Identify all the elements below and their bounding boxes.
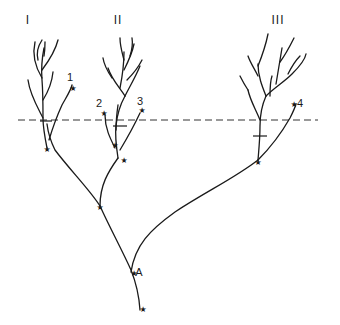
clade-label-II: II [114,13,123,27]
star-icon: ★ [96,203,103,212]
tip-label-2: 2 [96,97,102,109]
star-icon: ★ [111,141,118,150]
crossbar-marks [40,121,267,136]
star-icon: ★ [100,109,107,118]
star-icon: ★ [69,84,76,93]
tip-label-4: 4 [297,97,303,109]
star-icon: ★ [120,156,127,165]
star-icon: ★ [43,145,50,154]
clade-labels: IIIIII [26,13,285,27]
star-icon: ★ [254,158,261,167]
node-label-A: A [135,266,143,278]
node-labels: A [135,266,143,278]
tip-labels: 1234 [67,71,303,109]
star-icon: ★ [139,305,146,314]
clade-label-I: I [26,13,30,27]
clade-I [28,40,72,148]
tip-label-3: 3 [137,95,143,107]
phylogenetic-tree-diagram: ★★★★★★★★★★★ IIIIII 1234 A [0,0,340,325]
clade-label-III: III [271,13,284,27]
trunk [47,124,258,310]
tip-label-1: 1 [67,71,73,83]
